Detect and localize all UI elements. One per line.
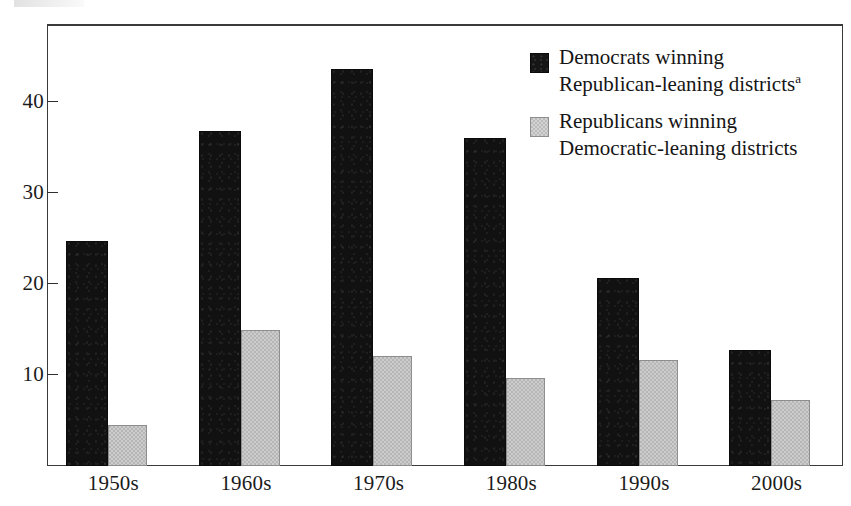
- legend-label-republicans-line2: Democratic-leaning districts: [559, 136, 798, 160]
- bar-group-1950s: [47, 24, 180, 466]
- x-axis-label-1950s: 1950s: [47, 471, 180, 495]
- bar-republicans-1970s: [373, 356, 412, 466]
- x-axis-label-1990s: 1990s: [578, 471, 711, 495]
- bar-group-1970s: [312, 24, 445, 466]
- legend-label-democrats-line2: Republican-leaning districts: [559, 72, 795, 96]
- legend-swatch-dark-icon: [530, 53, 549, 73]
- legend-footnote-marker: a: [795, 71, 801, 86]
- legend-label-democrats: Democrats winning Republican-leaning dis…: [559, 44, 801, 98]
- x-axis-label-1960s: 1960s: [180, 471, 313, 495]
- legend-item-democrats: Democrats winning Republican-leaning dis…: [530, 44, 801, 98]
- legend-label-republicans-line1: Republicans winning: [559, 109, 737, 133]
- legend-swatch-gray-icon: [530, 117, 549, 137]
- legend-item-republicans: Republicans winning Democratic-leaning d…: [530, 108, 801, 162]
- bar-group-1960s: [180, 24, 313, 466]
- legend-label-republicans: Republicans winning Democratic-leaning d…: [559, 108, 798, 162]
- chart-legend: Democrats winning Republican-leaning dis…: [530, 44, 801, 172]
- bar-republicans-2000s: [771, 400, 810, 466]
- bar-republicans-1960s: [241, 330, 280, 466]
- bar-democrats-1980s: [464, 138, 506, 466]
- bar-republicans-1980s: [506, 378, 545, 466]
- bar-democrats-2000s: [729, 350, 771, 466]
- bar-republicans-1950s: [108, 425, 147, 466]
- legend-label-democrats-line1: Democrats winning: [559, 45, 724, 69]
- bar-republicans-1990s: [639, 360, 678, 466]
- x-axis-label-1970s: 1970s: [312, 471, 445, 495]
- bar-democrats-1990s: [597, 278, 639, 466]
- bar-chart-figure: 40302010 1950s1960s1970s1980s1990s2000s …: [0, 0, 851, 506]
- x-axis-label-1980s: 1980s: [445, 471, 578, 495]
- bar-democrats-1950s: [66, 241, 108, 466]
- bar-democrats-1960s: [199, 131, 241, 466]
- x-axis-label-2000s: 2000s: [710, 471, 843, 495]
- bar-democrats-1970s: [331, 69, 373, 466]
